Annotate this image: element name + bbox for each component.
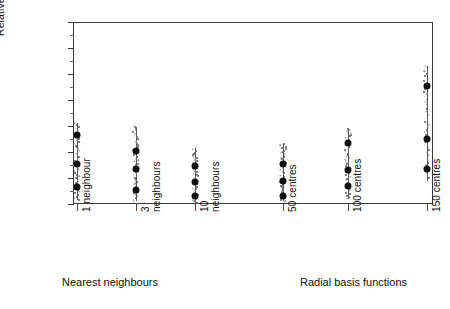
scatter-point <box>196 157 198 159</box>
scatter-point <box>76 196 78 198</box>
x-tick-mark <box>136 204 137 211</box>
scatter-point <box>137 163 139 165</box>
scatter-point <box>74 192 76 194</box>
scatter-point <box>345 174 347 176</box>
y-tick-mark <box>68 126 74 127</box>
x-tick-label-line: 10 <box>199 201 210 212</box>
scatter-point <box>426 129 428 131</box>
data-marker <box>74 160 81 167</box>
scatter-point <box>135 128 137 130</box>
scatter-point <box>194 152 196 154</box>
y-tick-mark <box>68 100 74 101</box>
x-tick-label: 10neighbours <box>199 162 221 212</box>
data-marker <box>133 186 140 193</box>
scatter-point <box>76 146 78 148</box>
scatter-point <box>134 126 136 128</box>
scatter-point <box>137 138 139 140</box>
scatter-point <box>346 195 348 197</box>
data-marker <box>345 167 352 174</box>
scatter-point <box>285 146 287 148</box>
axis-group-label: Nearest neighbours <box>62 276 158 288</box>
axis-group-label: Radial basis functions <box>300 276 407 288</box>
scatter-point <box>346 178 348 180</box>
scatter-point <box>76 174 78 176</box>
x-tick-mark <box>195 204 196 211</box>
scatter-point <box>426 108 428 110</box>
data-marker <box>133 147 140 154</box>
y-minor-tick <box>70 113 74 114</box>
scatter-point <box>77 194 79 196</box>
x-tick-label-line: 1 neighbour <box>81 158 92 212</box>
data-marker <box>280 160 287 167</box>
y-minor-tick <box>70 87 74 88</box>
y-tick-mark <box>68 204 74 205</box>
data-marker <box>133 165 140 172</box>
x-tick-label: 150 centres <box>431 159 442 212</box>
scatter-point <box>281 147 283 149</box>
plot-area <box>73 22 433 204</box>
scatter-point <box>75 177 77 179</box>
x-tick-label-line: neighbours <box>210 162 221 212</box>
data-marker <box>192 193 199 200</box>
x-tick-label: 1 neighbour <box>81 158 92 212</box>
scatter-point <box>76 124 78 126</box>
scatter-point <box>285 148 287 150</box>
x-tick-label: 50 centres <box>287 164 298 212</box>
scatter-point <box>347 128 349 130</box>
data-marker <box>345 139 352 146</box>
scatter-point <box>134 177 136 179</box>
scatter-point <box>283 156 285 158</box>
y-tick-mark <box>68 74 74 75</box>
scatter-point <box>196 174 198 176</box>
y-axis-title: Relative prediction horizon H <box>0 0 6 36</box>
x-tick-mark <box>77 204 78 211</box>
x-tick-label: 100 centres <box>352 159 363 212</box>
x-tick-label: 3neighbours <box>140 162 162 212</box>
scatter-point <box>350 134 352 136</box>
y-minor-tick <box>70 35 74 36</box>
scatter-point <box>427 162 429 164</box>
scatter-point <box>195 188 197 190</box>
scatter-point <box>424 121 426 123</box>
scatter-point <box>78 141 80 143</box>
x-tick-label-line: neighbours <box>151 162 162 212</box>
scatter-point <box>347 153 349 155</box>
scatter-point <box>423 91 425 93</box>
scatter-point <box>344 149 346 151</box>
chart-figure: Relative prediction horizon H 00.10.20.3… <box>0 0 450 309</box>
data-marker <box>74 184 81 191</box>
data-marker <box>192 163 199 170</box>
scatter-point <box>75 145 77 147</box>
data-marker <box>280 193 287 200</box>
scatter-point <box>282 184 284 186</box>
scatter-point <box>349 193 351 195</box>
scatter-point <box>428 177 430 179</box>
scatter-point <box>133 154 135 156</box>
x-tick-label-line: 50 centres <box>287 164 298 212</box>
y-tick-mark <box>68 22 74 23</box>
scatter-point <box>196 171 198 173</box>
y-minor-tick <box>70 61 74 62</box>
scatter-point <box>137 144 139 146</box>
data-marker <box>74 132 81 139</box>
data-marker <box>345 182 352 189</box>
scatter-point <box>424 75 426 77</box>
y-tick-mark <box>68 152 74 153</box>
scatter-point <box>345 192 347 194</box>
scatter-point <box>132 131 134 133</box>
y-axis-title-text: Relative prediction horizon <box>0 0 6 36</box>
scatter-point <box>428 149 430 151</box>
scatter-point <box>196 186 198 188</box>
scatter-point <box>78 126 80 128</box>
x-tick-mark <box>348 204 349 211</box>
data-marker <box>192 178 199 185</box>
y-minor-tick <box>70 139 74 140</box>
scatter-point <box>135 197 137 199</box>
scatter-point <box>78 199 80 201</box>
scatter-point <box>136 156 138 158</box>
x-tick-label-line: 150 centres <box>431 159 442 212</box>
x-tick-mark <box>427 204 428 211</box>
scatter-point <box>78 156 80 158</box>
scatter-point <box>283 143 285 145</box>
y-tick-mark <box>68 178 74 179</box>
